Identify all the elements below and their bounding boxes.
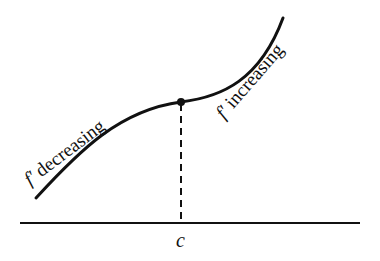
svg-text:f′ decreasing: f′ decreasing	[20, 115, 109, 189]
increasing-text: increasing	[217, 39, 288, 116]
function-curve	[36, 18, 283, 198]
right-segment-label: f′ increasing	[211, 39, 288, 123]
point-c-label: c	[176, 229, 185, 251]
decreasing-text: decreasing	[27, 115, 109, 184]
svg-text:f′ increasing: f′ increasing	[211, 39, 288, 123]
left-segment-label: f′ decreasing	[20, 115, 109, 189]
inflection-point-dot	[177, 98, 185, 106]
inflection-diagram: c f′ decreasing f′ increasing	[0, 0, 380, 261]
